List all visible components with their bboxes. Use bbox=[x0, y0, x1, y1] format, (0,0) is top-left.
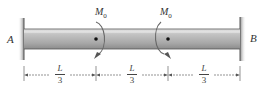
moment-label-2: M0 bbox=[160, 6, 172, 20]
fixed-support-a bbox=[18, 18, 24, 60]
dimension-label-3: L3 bbox=[197, 64, 211, 85]
fixed-support-b bbox=[240, 17, 246, 61]
beam-diagram bbox=[0, 0, 263, 104]
support-label-a: A bbox=[7, 34, 14, 45]
support-label-b: B bbox=[250, 33, 257, 44]
dimension-label-2: L3 bbox=[125, 64, 139, 85]
beam bbox=[24, 29, 240, 49]
moment-label-1: M0 bbox=[95, 6, 107, 20]
dimension-label-1: L3 bbox=[53, 64, 67, 85]
